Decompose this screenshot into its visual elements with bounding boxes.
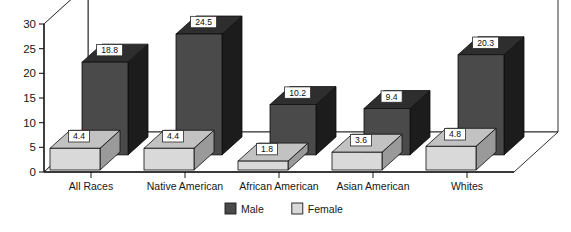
value-label-female[interactable]: 4.8 (444, 129, 465, 140)
legend[interactable]: MaleFemale (225, 203, 343, 215)
value-label-text: 20.3 (477, 38, 494, 48)
value-label-text: 4.4 (167, 131, 179, 141)
value-label-text: 4.4 (73, 131, 85, 141)
y-axis-tick-label: 5 (30, 141, 36, 153)
value-label-female[interactable]: 4.4 (68, 131, 89, 142)
value-label-male[interactable]: 9.4 (381, 91, 402, 102)
value-label-text: 3.6 (355, 135, 367, 145)
category-label: All Races (69, 180, 113, 192)
value-label-male[interactable]: 10.2 (285, 87, 311, 98)
value-label-male[interactable]: 18.8 (97, 44, 123, 55)
value-label-male[interactable]: 24.5 (191, 16, 217, 27)
value-label-female[interactable]: 3.6 (350, 135, 371, 146)
value-label-text: 24.5 (195, 17, 212, 27)
category-label: African American (239, 180, 319, 192)
bar-front-face[interactable] (238, 161, 288, 170)
bar-side-face[interactable] (128, 44, 148, 155)
chart-container: 05101520253018.84.424.54.410.21.89.43.62… (0, 0, 571, 232)
bar-front-face[interactable] (144, 148, 194, 170)
bar-side-face[interactable] (504, 37, 524, 155)
value-label-text: 1.8 (261, 144, 273, 154)
category-label: Whites (451, 180, 483, 192)
y-axis-tick-label: 25 (23, 43, 36, 55)
value-label-female[interactable]: 1.8 (256, 143, 277, 154)
bar-front-face[interactable] (426, 146, 476, 170)
bar-front-face[interactable] (50, 148, 100, 170)
value-label-text: 4.8 (449, 129, 461, 139)
value-label-text: 9.4 (386, 92, 398, 102)
category-label: Asian American (337, 180, 410, 192)
y-axis-tick-label: 30 (23, 18, 36, 30)
value-label-text: 18.8 (101, 45, 118, 55)
legend-item[interactable]: Female (292, 203, 343, 215)
y-axis-tick-label: 15 (23, 92, 36, 104)
legend-item[interactable]: Male (225, 203, 264, 215)
legend-swatch[interactable] (292, 203, 303, 214)
category-label: Native American (147, 180, 224, 192)
y-axis-tick-label: 20 (23, 67, 36, 79)
legend-label: Male (241, 203, 264, 215)
y-axis-tick-label: 0 (30, 166, 36, 178)
y-axis-tick-label: 10 (23, 117, 36, 129)
category-labels-group[interactable]: All RacesNative AmericanAfrican American… (69, 172, 483, 192)
bar-front-face[interactable] (332, 152, 382, 170)
value-label-text: 10.2 (289, 88, 306, 98)
value-label-female[interactable]: 4.4 (162, 131, 183, 142)
bar-side-face[interactable] (222, 16, 242, 155)
bar-chart-3d: 05101520253018.84.424.54.410.21.89.43.62… (0, 0, 571, 232)
legend-label: Female (308, 203, 343, 215)
value-label-male[interactable]: 20.3 (473, 37, 499, 48)
legend-swatch[interactable] (225, 203, 236, 214)
